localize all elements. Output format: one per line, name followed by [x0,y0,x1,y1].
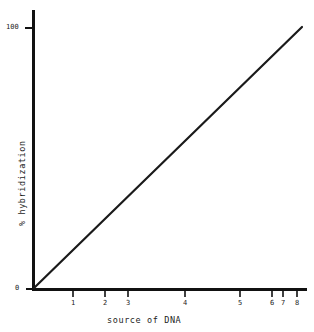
x-tick-label-3: 3 [126,300,130,307]
x-tick-label-4: 4 [183,300,187,307]
x-tick-label-7: 7 [281,300,285,307]
y-axis-title: % hybridization [18,140,27,226]
x-tick-label-8: 8 [295,300,299,307]
x-axis-title: source of DNA [107,316,181,325]
y-tick-label-0: 0 [15,285,19,292]
chart-background [0,0,314,332]
x-tick-label-2: 2 [103,300,107,307]
x-tick-label-5: 5 [238,300,242,307]
y-tick-label-100: 100 [6,24,19,31]
chart-canvas [0,0,314,332]
x-tick-label-6: 6 [270,300,274,307]
x-tick-label-1: 1 [71,300,75,307]
chart-figure: 100 0 1 2 3 4 5 6 7 8 source of DNA % hy… [0,0,314,332]
